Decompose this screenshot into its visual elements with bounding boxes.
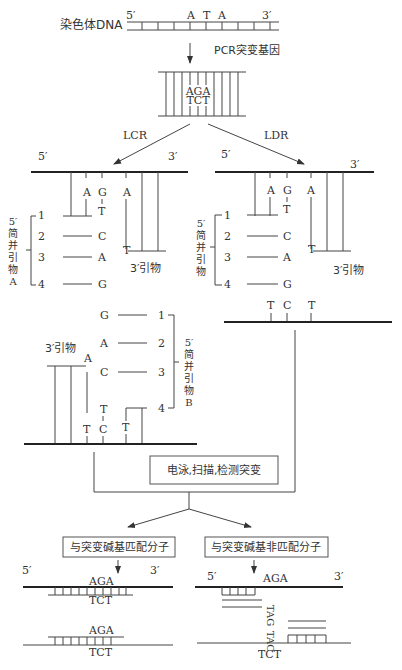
primer-b-2: 2	[158, 337, 165, 350]
svg-text:B: B	[185, 397, 192, 408]
lcr2-3primer-end-a: A	[83, 352, 93, 365]
lcr-label: LCR	[123, 129, 148, 142]
ldr-bottom-t: T	[267, 299, 275, 312]
primer-b-1: 1	[158, 309, 165, 322]
lcr-ldr-mutation-detection-diagram: 染色体DNA 5′ 3′ A T A PCR突变基因 AGA T	[0, 0, 402, 670]
lcr-five: 5′	[38, 150, 48, 163]
mismatch-label: 与突变碱基非匹配分子	[211, 540, 321, 554]
lcr-panel: 5′ 3′ A G T A T 3′引物 1 2 3 4 C A G 5′ 简	[8, 150, 188, 291]
pcr-product: AGA TCT	[158, 72, 246, 116]
svg-text:简: 简	[196, 229, 206, 241]
mismatch-branch: 与突变碱基非匹配分子 5′ 3′ AGA TAG TAC TCT	[195, 537, 351, 661]
svg-text:A: A	[8, 276, 17, 287]
svg-text:简: 简	[184, 348, 194, 360]
ldr-bottom-c: C	[283, 299, 291, 312]
ldr-base-a3: A	[306, 184, 316, 197]
match-lower-bottom: TCT	[89, 646, 113, 659]
match-label: 与突变碱基匹配分子	[70, 540, 169, 554]
chromosome-dna: 染色体DNA 5′ 3′ A T A	[60, 9, 279, 32]
ldr-primer-base-a: A	[282, 251, 292, 264]
ldr-primer-2: 2	[224, 230, 231, 243]
lcr-base-a3: A	[122, 186, 132, 199]
three-prime-label: 3′	[262, 9, 272, 22]
degenerate-primer-a-label: 5′ 简 并 引 物 A	[8, 216, 18, 287]
lcr2-3-primer-label: 3′引物	[45, 341, 77, 355]
mismatch-bottom-seq: TCT	[258, 648, 282, 661]
ldr-primer-base-g: G	[283, 278, 292, 291]
ldr-primer-1: 1	[224, 209, 231, 222]
ldr-primer-base-c: C	[283, 230, 291, 243]
base-t: T	[203, 9, 211, 22]
degenerate-primer-b-label: 5′ 简 并 引 物 B	[184, 337, 194, 408]
svg-text:引: 引	[8, 252, 18, 263]
primer-b-base-t: T	[100, 403, 108, 416]
base-a2: A	[217, 9, 227, 22]
pcr-step-label: PCR突变基因	[214, 43, 280, 57]
detection-label: 电泳,扫描,检测突变	[167, 463, 262, 477]
ldr-panel: 5′ 3′ A G T A T 3′引物 1 2 3 4 C A G 5′ 简 …	[196, 148, 392, 322]
svg-text:5′: 5′	[9, 216, 18, 227]
primer-a-3: 3	[38, 251, 45, 264]
svg-text:物: 物	[196, 265, 206, 277]
mismatch-three: 3′	[334, 570, 344, 583]
primer-a-base-c: C	[98, 230, 106, 243]
svg-text:引: 引	[184, 373, 194, 384]
match-upper-bottom: TCT	[89, 594, 113, 607]
ldr-five: 5′	[221, 148, 231, 161]
mismatch-arrow	[189, 509, 251, 527]
primer-b-3: 3	[158, 366, 165, 379]
ldr-three: 3′	[350, 158, 360, 171]
ldr-label: LDR	[264, 129, 289, 142]
mismatch-top-seq: AGA	[262, 572, 289, 585]
ldr-bottom-t2: T	[308, 299, 316, 312]
pcr-bottom-seq: TCT	[186, 94, 210, 107]
svg-text:物: 物	[184, 384, 194, 396]
svg-text:简: 简	[8, 227, 18, 239]
primer-b-4: 4	[158, 402, 165, 415]
match-five: 5′	[22, 564, 32, 577]
lcr-primer-end-t: T	[98, 205, 106, 218]
primer-a-4: 4	[38, 278, 45, 291]
primer-a-base-a: A	[97, 251, 107, 264]
match-upper-top: AGA	[88, 575, 115, 588]
ldr-3-primer-label: 3′引物	[333, 263, 365, 277]
match-three: 3′	[150, 564, 160, 577]
mismatch-five: 5′	[207, 570, 217, 583]
ldr-primer-end-t: T	[283, 203, 291, 216]
match-arrow	[128, 509, 189, 527]
svg-text:并: 并	[196, 241, 206, 253]
svg-text:5′: 5′	[185, 337, 194, 348]
primer-b-base-a: A	[99, 337, 109, 350]
primer-a-base-g: G	[98, 278, 107, 291]
lcr2-bottom-t: T	[83, 423, 91, 436]
svg-text:并: 并	[8, 239, 18, 251]
ldr-primer-3: 3	[224, 251, 231, 264]
lcr-3-primer-label: 3′引物	[130, 261, 162, 275]
chromosome-dna-label: 染色体DNA	[60, 17, 123, 32]
ldr-base-g: G	[283, 184, 292, 197]
svg-text:5′: 5′	[197, 218, 206, 229]
primer-b-base-g: G	[100, 309, 109, 322]
lcr2-bottom-t2: T	[122, 421, 130, 434]
ldr-primer-4: 4	[224, 278, 231, 291]
mismatch-vertical-tag: TAG	[265, 605, 276, 626]
lcr-three: 3′	[168, 150, 178, 163]
five-prime-label: 5′	[126, 9, 136, 22]
lcr2-bottom-c: C	[99, 423, 107, 436]
lcr-base-a: A	[82, 186, 92, 199]
lcr-second-strand: G 1 A 2 C 3 T 4 5′ 简 并 引 物 B 3′引物 A T C	[24, 309, 197, 444]
lcr-base-g: G	[98, 186, 107, 199]
ldr-base-a: A	[266, 184, 276, 197]
ldr-3primer-end: T	[308, 243, 316, 256]
svg-text:引: 引	[196, 254, 206, 265]
primer-a-1: 1	[38, 209, 45, 222]
match-branch: 与突变碱基匹配分子 5′ 3′ AGA TCT AGA TCT	[22, 537, 175, 659]
svg-text:物: 物	[8, 263, 18, 275]
match-lower-top: AGA	[88, 624, 115, 637]
primer-b-base-c: C	[100, 366, 108, 379]
degenerate-primer-ldr-label: 5′ 简 并 引 物	[196, 218, 206, 277]
primer-a-2: 2	[38, 230, 45, 243]
base-a: A	[186, 9, 196, 22]
svg-text:并: 并	[184, 360, 194, 372]
